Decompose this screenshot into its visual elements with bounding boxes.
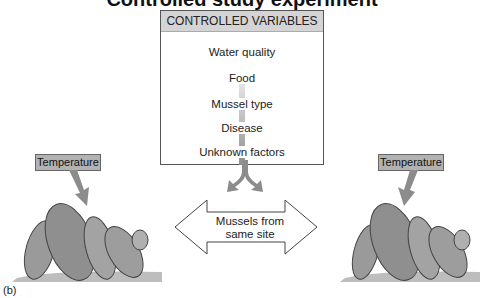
controlled-variables-header: CONTROLLED VARIABLES [161,11,323,32]
variable-unknown-factors: Unknown factors [161,146,323,158]
split-arrow-icon [215,160,275,195]
mussels-same-site-label: Mussels from same site [205,215,295,241]
variable-mussel-type: Mussel type [161,98,323,110]
figure-panel-label: (b) [3,284,16,296]
temperature-label-left: Temperature [35,154,101,171]
variable-disease: Disease [161,122,323,134]
temperature-label-right: Temperature [378,154,444,171]
mussels-right-illustration [340,200,480,282]
variable-food: Food [161,72,323,84]
variable-water-quality: Water quality [161,46,323,58]
controlled-variables-box: CONTROLLED VARIABLES Water quality Food … [160,10,324,165]
mussels-left-illustration [12,200,162,282]
